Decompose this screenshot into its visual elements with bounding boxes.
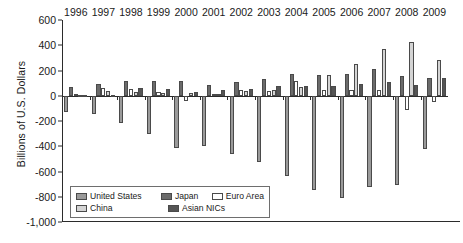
bar-group-2004 xyxy=(283,20,311,222)
bar-united-states-2009 xyxy=(423,96,427,149)
bar-japan-1997 xyxy=(96,84,100,96)
bar-japan-1999 xyxy=(152,81,156,96)
bar-group-2006 xyxy=(338,20,366,222)
bar-china-2006 xyxy=(354,64,358,96)
bar-asian-nics-2004 xyxy=(304,86,308,96)
bar-united-states-2008 xyxy=(395,96,399,185)
x-tick-label-2007: 2007 xyxy=(365,6,393,20)
bar-euro-area-1997 xyxy=(101,88,105,96)
legend-item-japan[interactable]: Japan xyxy=(161,192,212,201)
x-tick-label-2008: 2008 xyxy=(393,6,421,20)
bar-asian-nics-2008 xyxy=(414,85,418,96)
bar-united-states-2000 xyxy=(174,96,178,149)
bar-japan-2001 xyxy=(207,85,211,96)
bar-japan-2004 xyxy=(290,74,294,96)
x-tick-label-1998: 1998 xyxy=(117,6,145,20)
bar-euro-area-1998 xyxy=(129,89,133,96)
bar-united-states-2005 xyxy=(312,96,316,190)
bar-group-2005 xyxy=(310,20,338,222)
legend-item-united-states[interactable]: United States xyxy=(76,192,161,201)
legend-item-asian-nics[interactable]: Asian NICs xyxy=(168,204,225,213)
bar-japan-2003 xyxy=(262,79,266,96)
x-tick-label-2002: 2002 xyxy=(227,6,255,20)
x-tick-mark-2001 xyxy=(200,96,201,100)
x-tick-mark-1996 xyxy=(62,96,63,100)
bar-asian-nics-1996 xyxy=(83,95,87,97)
bar-euro-area-2008 xyxy=(405,96,409,111)
x-tick-label-1996: 1996 xyxy=(62,6,90,20)
bar-japan-2000 xyxy=(179,81,183,96)
x-tick-label-2009: 2009 xyxy=(421,6,449,20)
bar-asian-nics-1998 xyxy=(138,88,142,96)
bar-united-states-2002 xyxy=(230,96,234,154)
bar-china-2002 xyxy=(244,91,248,95)
legend-item-euro-area[interactable]: Euro Area xyxy=(212,192,264,201)
x-tick-label-2004: 2004 xyxy=(283,6,311,20)
bar-united-states-2006 xyxy=(340,96,344,198)
x-tick-mark-2004 xyxy=(283,96,284,100)
bar-japan-1998 xyxy=(124,81,128,96)
legend-swatch-china xyxy=(76,205,87,212)
bar-euro-area-2004 xyxy=(294,81,298,96)
x-axis-tick-labels: 1996199719981999200020012002200320042005… xyxy=(62,6,448,20)
bar-euro-area-2009 xyxy=(432,96,436,102)
bar-china-1997 xyxy=(106,91,110,96)
x-tick-label-1997: 1997 xyxy=(90,6,118,20)
x-tick-mark-2000 xyxy=(172,96,173,100)
legend-swatch-united-states xyxy=(76,193,87,200)
legend-label-united-states: United States xyxy=(90,192,142,201)
bar-united-states-2007 xyxy=(367,96,371,188)
y-axis-label: Billions of U.S. Dollars xyxy=(15,19,27,209)
legend-label-euro-area: Euro Area xyxy=(226,192,264,201)
bar-group-2009 xyxy=(421,20,449,222)
x-tick-mark-1997 xyxy=(90,96,91,100)
legend-item-china[interactable]: China xyxy=(76,204,168,213)
bar-japan-2008 xyxy=(400,76,404,96)
x-tick-mark-2006 xyxy=(338,96,339,100)
bar-united-states-1999 xyxy=(147,96,151,134)
bar-united-states-1997 xyxy=(92,96,96,114)
bar-japan-2002 xyxy=(234,82,238,96)
bar-asian-nics-2009 xyxy=(442,78,446,96)
bar-japan-2005 xyxy=(317,75,321,96)
bar-euro-area-2003 xyxy=(267,91,271,96)
bar-group-2007 xyxy=(365,20,393,222)
legend-label-japan: Japan xyxy=(175,192,198,201)
legend-label-asian-nics: Asian NICs xyxy=(182,204,225,213)
bar-asian-nics-1999 xyxy=(166,89,170,95)
bar-china-2008 xyxy=(409,42,413,96)
x-tick-mark-2003 xyxy=(255,96,256,100)
bar-china-1996 xyxy=(78,95,82,97)
legend-row-2: China Asian NICs xyxy=(76,202,264,214)
x-tick-label-2001: 2001 xyxy=(200,6,228,20)
bar-china-2007 xyxy=(382,49,386,96)
bar-united-states-2004 xyxy=(285,96,289,176)
bar-asian-nics-2000 xyxy=(194,92,198,96)
bar-japan-2006 xyxy=(345,74,349,96)
legend-label-china: China xyxy=(90,204,112,213)
bar-china-2001 xyxy=(216,94,220,96)
bar-asian-nics-2007 xyxy=(387,82,391,96)
x-tick-label-1999: 1999 xyxy=(145,6,173,20)
x-tick-mark-2008 xyxy=(393,96,394,100)
x-tick-mark-2002 xyxy=(227,96,228,100)
bar-china-2004 xyxy=(299,87,303,96)
x-tick-label-2003: 2003 xyxy=(255,6,283,20)
bar-united-states-2003 xyxy=(257,96,261,162)
x-tick-label-2005: 2005 xyxy=(310,6,338,20)
x-tick-mark-2009 xyxy=(421,96,422,100)
bar-euro-area-2005 xyxy=(322,90,326,96)
x-tick-mark-2005 xyxy=(310,96,311,100)
bar-euro-area-2007 xyxy=(377,90,381,96)
bar-euro-area-1996 xyxy=(74,94,78,96)
bar-group-2008 xyxy=(393,20,421,222)
bar-asian-nics-2001 xyxy=(221,90,225,96)
bar-china-2003 xyxy=(272,90,276,96)
x-tick-mark-2007 xyxy=(365,96,366,100)
bar-united-states-1998 xyxy=(119,96,123,123)
bar-euro-area-2001 xyxy=(212,94,216,96)
x-tick-label-2000: 2000 xyxy=(172,6,200,20)
legend-swatch-asian-nics xyxy=(168,205,179,212)
bar-asian-nics-1997 xyxy=(111,95,115,97)
bar-china-2000 xyxy=(189,93,193,96)
